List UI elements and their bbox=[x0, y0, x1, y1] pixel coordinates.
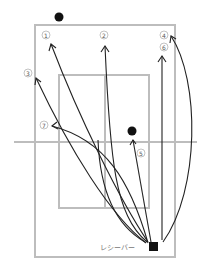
label-2: 2 bbox=[100, 31, 108, 39]
svg-text:2: 2 bbox=[102, 32, 106, 39]
svg-text:4: 4 bbox=[162, 32, 166, 39]
mid-player-dot bbox=[128, 127, 137, 136]
svg-text:1: 1 bbox=[44, 32, 48, 39]
label-7: 7 bbox=[40, 121, 48, 129]
label-1: 1 bbox=[42, 31, 50, 39]
trajectory-6 bbox=[158, 56, 166, 240]
volleyball-reception-diagram: 1 2 3 4 5 6 7 レシーバー bbox=[0, 0, 207, 269]
trajectory-4 bbox=[163, 36, 192, 242]
trajectory-3 bbox=[35, 78, 146, 243]
receiver-square bbox=[149, 242, 158, 251]
label-6: 6 bbox=[160, 43, 168, 51]
label-4: 4 bbox=[160, 31, 168, 39]
svg-text:5: 5 bbox=[139, 150, 143, 157]
label-3: 3 bbox=[24, 69, 32, 77]
label-5: 5 bbox=[137, 149, 145, 157]
svg-text:3: 3 bbox=[26, 70, 30, 77]
svg-text:6: 6 bbox=[162, 44, 166, 51]
svg-text:7: 7 bbox=[42, 122, 46, 129]
receiver-label: レシーバー bbox=[100, 244, 135, 252]
top-player-dot bbox=[55, 13, 64, 22]
